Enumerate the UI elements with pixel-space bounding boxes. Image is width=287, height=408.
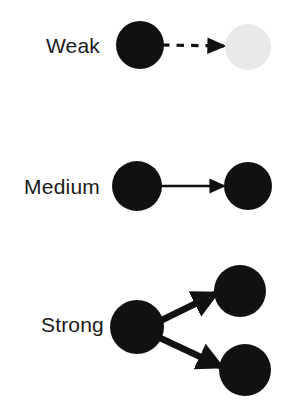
strong-target-node-upper — [214, 265, 266, 317]
weak-source-node — [116, 21, 164, 69]
medium-target-node — [224, 162, 272, 210]
row-label-medium: Medium — [24, 175, 100, 198]
weak-target-node-faded — [225, 24, 271, 70]
strong-source-node — [110, 300, 164, 354]
strong-target-node-lower — [219, 344, 271, 396]
row-label-strong: Strong — [41, 313, 104, 336]
legend-diagram: Weak Medium Strong — [0, 0, 287, 408]
row-label-weak: Weak — [46, 34, 100, 57]
medium-source-node — [112, 161, 162, 211]
interaction-strength-legend: Weak Medium Strong — [0, 0, 287, 408]
